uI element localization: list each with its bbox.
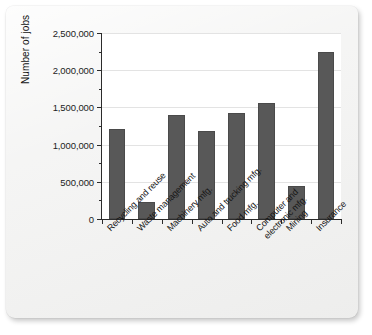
y-axis-tick <box>97 70 102 71</box>
bar <box>109 129 126 219</box>
plot-area: 0500,0001,000,0001,500,0002,000,0002,500… <box>101 33 341 220</box>
y-axis-title: Number of jobs <box>20 15 31 84</box>
screenshot-root: Number of jobs 0500,0001,000,0001,500,00… <box>0 0 372 335</box>
y-axis-minor-tick <box>99 52 103 53</box>
y-axis-tick-label: 1,000,000 <box>53 139 94 150</box>
x-axis-tick <box>192 219 193 224</box>
x-axis-tick <box>251 219 252 224</box>
y-axis-tick-label: 0 <box>89 214 94 225</box>
y-axis-tick-label: 1,500,000 <box>53 102 94 113</box>
y-gridline <box>102 33 341 34</box>
x-axis-tick <box>341 219 342 224</box>
y-axis-minor-tick <box>99 89 103 90</box>
y-axis-minor-tick <box>99 163 103 164</box>
bar-chart: Number of jobs 0500,0001,000,0001,500,00… <box>6 6 358 318</box>
y-axis-tick <box>97 33 102 34</box>
y-gridline <box>102 107 341 108</box>
bar <box>258 103 275 219</box>
chart-paper-sheet: Number of jobs 0500,0001,000,0001,500,00… <box>6 6 358 318</box>
x-axis-tick <box>311 219 312 224</box>
x-axis-tick <box>132 219 133 224</box>
x-axis-tick <box>102 219 103 224</box>
y-axis-tick-label: 2,000,000 <box>53 65 94 76</box>
y-axis-tick <box>97 145 102 146</box>
y-gridline <box>102 70 341 71</box>
bar <box>198 131 215 219</box>
y-axis-tick <box>97 107 102 108</box>
y-axis-tick-label: 2,500,000 <box>53 28 94 39</box>
bar <box>318 52 335 219</box>
y-axis-minor-tick <box>99 126 103 127</box>
y-gridline <box>102 182 341 183</box>
y-gridline <box>102 145 341 146</box>
x-axis-tick <box>162 219 163 224</box>
x-axis-tick <box>222 219 223 224</box>
y-axis-tick <box>97 182 102 183</box>
y-axis-minor-tick <box>99 200 103 201</box>
y-axis-tick-label: 500,000 <box>60 176 94 187</box>
